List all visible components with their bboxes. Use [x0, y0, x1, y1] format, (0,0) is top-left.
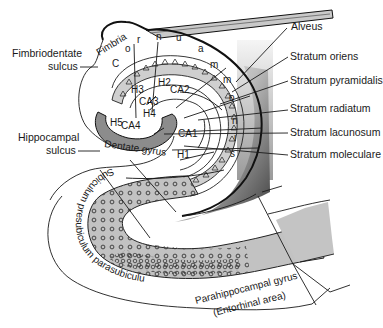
- arc-letter-n2: n: [232, 115, 238, 126]
- ca2-label: CA2: [170, 84, 190, 95]
- h4-label: H4: [143, 108, 156, 119]
- arc-letter-r: r: [137, 34, 141, 45]
- hippocampal-sulcus-label: Hippocampal: [18, 131, 79, 143]
- alveus-label: Alveus: [291, 20, 323, 32]
- hippocampal-sulcus-label-2: sulcus: [46, 144, 76, 156]
- arc-letter-o: o: [125, 43, 131, 54]
- fimbriodentate-sulcus-label-2: sulcus: [48, 60, 78, 72]
- hippocampus-diagram: C o r n u a m m o n i s Fimbria H2 CA2 H…: [0, 0, 383, 328]
- arc-letter-m2: m: [223, 74, 231, 85]
- fimbria-label: Fimbria: [94, 30, 128, 57]
- arc-letter-u: u: [176, 32, 182, 43]
- ca4-label: CA4: [121, 120, 141, 131]
- stratum-lacunosum-label: Stratum lacunosum: [290, 126, 381, 138]
- stratum-moleculare-label: Stratum moleculare: [290, 148, 381, 160]
- arc-letter-n: n: [156, 31, 162, 42]
- arc-letter-c: C: [112, 58, 119, 69]
- stratum-radiatum-label: Stratum radiatum: [290, 102, 371, 114]
- arc-letter-o2: o: [229, 92, 235, 103]
- h1-label: H1: [177, 149, 190, 160]
- arc-letter-m1: m: [210, 59, 218, 70]
- entorhinal-lower-line: [293, 264, 316, 305]
- stratum-pyramidalis-label: Stratum pyramidalis: [290, 74, 383, 86]
- ca3-label: CA3: [139, 96, 159, 107]
- stratum-oriens-label: Stratum oriens: [290, 50, 358, 62]
- h3-label: H3: [131, 84, 144, 95]
- diagram-canvas: C o r n u a m m o n i s Fimbria H2 CA2 H…: [0, 0, 383, 328]
- fimbriodentate-sulcus-label: Fimbriodentate: [12, 47, 82, 59]
- arc-letter-a: a: [198, 43, 204, 54]
